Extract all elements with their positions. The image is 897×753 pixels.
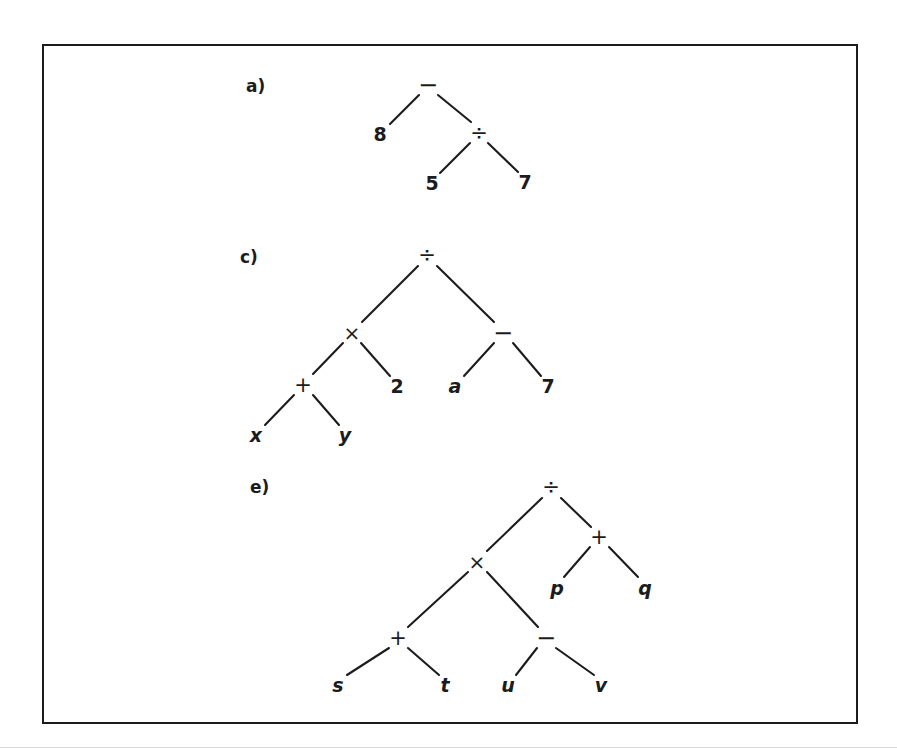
c-node-a: a [449,377,462,396]
e-node-divide-root: ÷ [542,477,560,498]
c-node-divide-root: ÷ [418,245,436,266]
a-node-divide: ÷ [470,123,488,144]
e-node-s: s [332,676,343,695]
e-node-p: p [550,579,564,598]
c-node-plus: + [294,375,312,396]
e-node-times: × [469,552,486,572]
a-node-7: 7 [518,173,531,192]
a-node-5: 5 [425,174,438,193]
c-node-x: x [250,426,262,445]
page-bottom-rule [0,747,897,748]
c-node-2: 2 [390,377,403,396]
e-node-v: v [595,676,607,695]
c-node-minus: − [493,321,513,345]
expression-tree-figure: a)−8÷57c)÷×−+2a7xye)÷×+pq+−stuv [0,0,897,753]
e-node-q: q [638,579,652,598]
panel-label-a: a) [246,76,265,96]
e-node-u: u [501,676,515,695]
c-node-times: × [344,323,361,343]
c-node-y: y [339,426,351,445]
c-node-7: 7 [541,377,554,396]
a-node-minus-root: − [418,73,438,97]
panel-label-e: e) [250,477,269,497]
e-node-plus-right: + [590,527,608,548]
e-node-plus-left: + [389,628,407,649]
a-node-8: 8 [373,125,386,144]
e-node-minus: − [536,626,556,650]
panel-label-c: c) [240,247,258,267]
e-node-t: t [440,676,449,695]
